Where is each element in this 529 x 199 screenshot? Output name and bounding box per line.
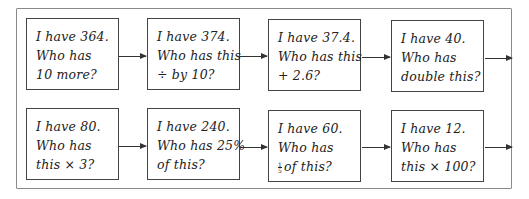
card-line: Who has (36, 46, 118, 65)
card-line: I have 80. (36, 117, 118, 136)
card-4: I have 40. Who has double this? (391, 20, 484, 92)
arrow-icon (240, 56, 267, 57)
card-line-fraction: 15of this? (278, 157, 360, 176)
card-line: I have 37.4. (278, 28, 360, 47)
card-line: Who has this (157, 46, 239, 65)
arrow-icon (240, 147, 267, 148)
card-6: I have 240. Who has 25% of this? (147, 108, 240, 180)
card-line: Who has (36, 136, 118, 155)
card-line: I have 12. (401, 119, 483, 138)
card-line: Who has (278, 138, 360, 157)
card-5: I have 80. Who has this × 3? (26, 108, 119, 180)
card-1: I have 364. Who has 10 more? (26, 18, 119, 90)
card-line: I have 40. (401, 29, 483, 48)
arrow-icon (362, 147, 390, 148)
card-line: + 2.6? (278, 66, 360, 85)
arrow-icon (119, 146, 146, 147)
card-3: I have 37.4. Who has this + 2.6? (268, 19, 361, 91)
card-7: I have 60. Who has 15of this? (268, 110, 361, 182)
arrow-icon (485, 147, 512, 148)
card-line: ÷ by 10? (157, 65, 239, 84)
arrow-icon (485, 58, 512, 59)
card-line: 10 more? (36, 65, 118, 84)
fraction: 15 (278, 162, 282, 173)
card-line: Who has this (278, 47, 360, 66)
arrow-icon (362, 57, 390, 58)
card-line: of this? (157, 155, 239, 174)
card-line: I have 240. (157, 117, 239, 136)
card-2: I have 374. Who has this ÷ by 10? (147, 18, 240, 90)
card-line: I have 374. (157, 27, 239, 46)
card-line: I have 364. (36, 27, 118, 46)
card-line: this × 100? (401, 157, 483, 176)
card-line: this × 3? (36, 155, 118, 174)
card-line: Who has (401, 138, 483, 157)
card-8: I have 12. Who has this × 100? (391, 110, 484, 182)
card-line: double this? (401, 67, 483, 86)
card-line: Who has (401, 48, 483, 67)
card-line: Who has 25% (157, 136, 239, 155)
card-line: I have 60. (278, 119, 360, 138)
arrow-icon (119, 56, 146, 57)
